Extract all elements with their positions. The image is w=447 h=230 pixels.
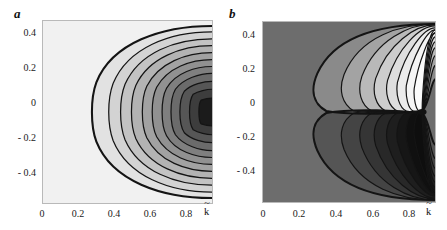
panel-b-xaxis-title: ~ k xyxy=(426,206,431,217)
panel-a-contour-canvas xyxy=(43,21,212,203)
panel-a-ytick-3: - 0.2 xyxy=(0,132,36,143)
panel-b-ytick-3: - 0.2 xyxy=(219,131,255,142)
panel-a-xtick-3: 0.6 xyxy=(140,208,160,219)
panel-a-xtick-0: 0 xyxy=(32,208,52,219)
panel-b: b 0.4 0.2 0 - 0.2 - 0.4 xyxy=(223,0,446,230)
panel-a-xtick-2: 0.4 xyxy=(104,208,124,219)
panel-b-xtick-4: 0.8 xyxy=(399,208,419,219)
panel-a-ytick-0: 0.4 xyxy=(4,27,36,38)
panel-b-xtick-1: 0.2 xyxy=(289,208,309,219)
panel-b-ytick-4: - 0.4 xyxy=(219,165,255,176)
panel-b-xtick-3: 0.6 xyxy=(363,208,383,219)
panel-a-ytick-4: - 0.4 xyxy=(0,167,36,178)
panel-b-xtick-0: 0 xyxy=(253,208,273,219)
panel-a-xtick-4: 0.8 xyxy=(176,208,196,219)
panel-b-ytick-1: 0.2 xyxy=(223,63,255,74)
panel-a: a 0.4 0.2 0 - 0.2 - 0.4 xyxy=(0,0,223,230)
panel-a-ytick-1: 0.2 xyxy=(4,62,36,73)
panel-a-ytick-2: 0 xyxy=(4,97,36,108)
panel-b-plot-area xyxy=(262,21,436,203)
panel-a-xaxis-tilde: ~ xyxy=(204,199,210,208)
panel-b-ytick-0: 0.4 xyxy=(223,29,255,40)
panel-b-xaxis-tilde: ~ xyxy=(426,199,432,208)
panel-a-label: a xyxy=(14,6,21,22)
panel-b-saddle-point xyxy=(418,109,427,115)
panel-a-xaxis-title: ~ k xyxy=(204,206,209,217)
panel-b-label: b xyxy=(229,6,236,22)
panel-b-xtick-2: 0.4 xyxy=(326,208,346,219)
figure-container: a 0.4 0.2 0 - 0.2 - 0.4 xyxy=(0,0,447,230)
panel-a-xtick-1: 0.2 xyxy=(68,208,88,219)
panel-a-plot-area xyxy=(42,20,213,204)
panel-b-ytick-2: 0 xyxy=(223,97,255,108)
panel-b-contour-canvas xyxy=(263,22,435,202)
